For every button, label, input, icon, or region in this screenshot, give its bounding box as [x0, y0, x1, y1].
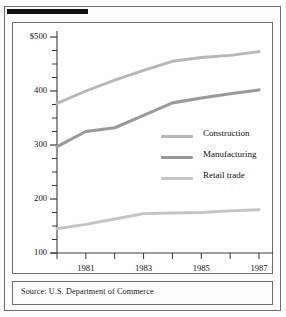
- y-tick-label: 400: [11, 86, 47, 95]
- series-line-manufacturing: [57, 90, 259, 147]
- series-layer: [57, 52, 259, 229]
- legend-label: Construction: [203, 128, 250, 138]
- y-tick-label: 100: [11, 248, 47, 257]
- y-tick-label: 300: [11, 140, 47, 149]
- legend-swatch-icon: [161, 177, 193, 180]
- series-line-construction: [57, 52, 259, 104]
- source-panel: Source: U.S. Department of Commerce: [12, 281, 273, 305]
- series-line-retail-trade: [57, 210, 259, 229]
- figure-root: $500400300200100 1981198319851987 Constr…: [0, 0, 286, 317]
- legend-swatch-icon: [161, 156, 193, 159]
- chart-panel: $500400300200100 1981198319851987 Constr…: [12, 22, 273, 274]
- legend-label: Manufacturing: [203, 149, 256, 159]
- plot-area: $500400300200100 1981198319851987 Constr…: [13, 23, 274, 275]
- y-tick-label: 200: [11, 194, 47, 203]
- legend-swatch-icon: [161, 135, 193, 138]
- y-tick-label: $500: [11, 32, 47, 41]
- x-tick-label: 1987: [241, 263, 277, 273]
- source-note: Source: U.S. Department of Commerce: [21, 287, 154, 296]
- top-black-rule: [7, 9, 88, 14]
- legend-label: Retail trade: [203, 170, 245, 180]
- x-tick-label: 1985: [183, 263, 219, 273]
- x-tick-label: 1983: [126, 263, 162, 273]
- x-tick-label: 1981: [68, 263, 104, 273]
